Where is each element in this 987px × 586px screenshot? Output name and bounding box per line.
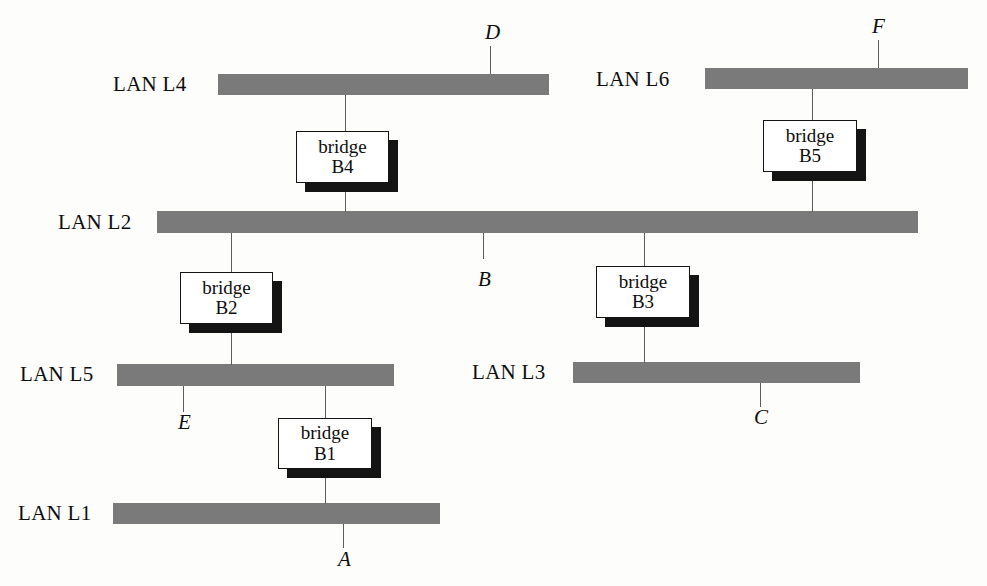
lan-label-L3: LAN L3 <box>472 362 546 383</box>
bridge-face-B1: bridge B1 <box>278 418 372 469</box>
station-label-C: C <box>754 407 768 428</box>
station-label-A: A <box>338 549 351 570</box>
wire-station-E <box>183 386 184 412</box>
wire-station-F <box>878 40 879 68</box>
bridge-face-B5: bridge B5 <box>763 120 857 172</box>
station-label-E: E <box>178 412 191 433</box>
bridge-word-B4: bridge <box>318 137 367 157</box>
wire-L4-to-B4 <box>345 95 346 132</box>
station-label-B: B <box>478 269 491 290</box>
wire-station-B <box>483 233 484 259</box>
bridge-id-B5: B5 <box>799 146 821 166</box>
bridge-id-B2: B2 <box>215 298 237 318</box>
lan-label-L6: LAN L6 <box>596 69 670 90</box>
bridge-word-B2: bridge <box>202 278 251 298</box>
lan-bar-L6 <box>705 68 968 89</box>
bridge-word-B3: bridge <box>619 272 668 292</box>
bridge-face-B2: bridge B2 <box>180 272 273 324</box>
bridge-id-B4: B4 <box>331 157 353 177</box>
lan-bar-L2 <box>157 211 918 233</box>
wire-station-D <box>490 46 491 74</box>
lan-label-L4: LAN L4 <box>113 74 187 95</box>
wire-L2-to-B2 <box>231 233 232 273</box>
bridge-node-B2: bridge B2 <box>180 272 273 324</box>
lan-label-L1: LAN L1 <box>18 503 92 524</box>
bridge-face-B4: bridge B4 <box>296 131 389 183</box>
bridge-face-B3: bridge B3 <box>596 266 690 318</box>
lan-bar-L3 <box>573 362 860 383</box>
lan-label-L5: LAN L5 <box>20 364 94 385</box>
bridge-id-B3: B3 <box>632 292 654 312</box>
lan-bar-L4 <box>218 74 549 95</box>
lan-bar-L5 <box>117 364 394 386</box>
network-diagram-canvas: LAN L4 LAN L6 LAN L2 LAN L5 LAN L3 LAN L… <box>0 0 987 586</box>
lan-bar-L1 <box>113 503 440 524</box>
wire-L5-to-B1 <box>325 386 326 419</box>
bridge-node-B3: bridge B3 <box>596 266 690 318</box>
wire-station-C <box>760 383 761 407</box>
bridge-word-B5: bridge <box>786 126 835 146</box>
bridge-node-B4: bridge B4 <box>296 131 389 183</box>
bridge-word-B1: bridge <box>301 423 350 443</box>
wire-station-A <box>343 524 344 548</box>
wire-L2-to-B3 <box>644 233 645 267</box>
bridge-node-B1: bridge B1 <box>278 418 372 469</box>
bridge-node-B5: bridge B5 <box>763 120 857 172</box>
station-label-F: F <box>872 16 885 37</box>
lan-label-L2: LAN L2 <box>58 212 132 233</box>
bridge-id-B1: B1 <box>314 444 336 464</box>
wire-L6-to-B5 <box>812 89 813 121</box>
station-label-D: D <box>485 22 500 43</box>
